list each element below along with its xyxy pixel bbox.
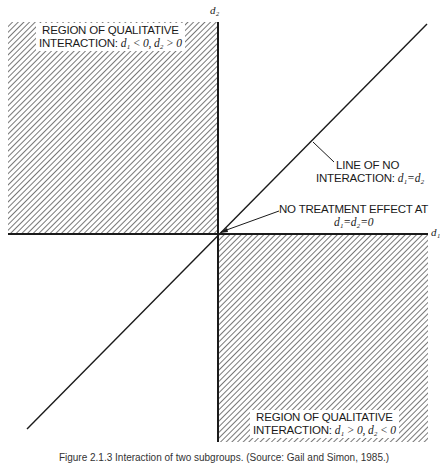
annotation-line2: INTERACTION: d₁=d₂ [316,172,424,185]
region-label-line1: REGION OF QUALITATIVE [39,24,182,37]
region-label-line2: INTERACTION: d₁ > 0, d₂ < 0 [253,424,396,437]
x-axis-label: d₁ [431,226,440,238]
no-treatment-effect-annotation: NO TREATMENT EFFECT AT d₁=d₂=0 [279,203,428,229]
y-axis-label: d₂ [210,4,219,16]
region-label-line1: REGION OF QUALITATIVE [253,411,396,424]
lower-right-region-label: REGION OF QUALITATIVE INTERACTION: d₁ > … [250,410,399,438]
figure-caption: Figure 2.1.3 Interaction of two subgroup… [0,452,448,463]
upper-left-hatched-region [8,22,218,234]
annotation-line1: LINE OF NO [316,159,424,172]
annotation-line2: d₁=d₂=0 [279,216,428,229]
leader-no-effect [221,211,279,232]
no-interaction-annotation: LINE OF NO INTERACTION: d₁=d₂ [316,159,424,185]
region-label-line2: INTERACTION: d₁ < 0, d₂ > 0 [39,37,182,50]
annotation-line1: NO TREATMENT EFFECT AT [279,203,428,216]
upper-left-region-label: REGION OF QUALITATIVE INTERACTION: d₁ < … [36,23,185,51]
